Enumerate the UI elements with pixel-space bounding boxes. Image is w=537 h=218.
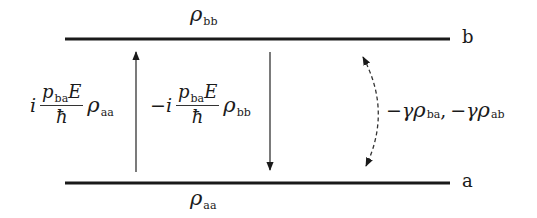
decay-rate-terms: −γρba,−γρab	[386, 98, 505, 122]
absorption-rate-term: i pbaE ħ ρaa	[30, 82, 114, 128]
fraction: pbaE ħ	[40, 82, 83, 128]
field-symbol: E	[204, 81, 217, 102]
subscript: ba	[191, 92, 205, 105]
subscript: aa	[101, 106, 114, 119]
level-b-label: b	[462, 26, 474, 47]
rho-symbol: ρ	[478, 98, 490, 122]
rho-symbol: ρ	[413, 98, 425, 122]
fraction-denominator: ħ	[192, 106, 204, 128]
imaginary-unit: i	[30, 94, 36, 116]
rho-symbol: ρ	[190, 186, 202, 210]
subscript: bb	[203, 15, 217, 28]
fraction-numerator: pbaE	[40, 82, 83, 106]
subscript: ab	[491, 108, 505, 121]
fraction: pbaE ħ	[176, 82, 219, 128]
rho-symbol: ρ	[87, 93, 99, 117]
neg-imaginary-unit: −i	[150, 94, 172, 116]
rho-aa-population-label: ρaa	[190, 186, 216, 210]
subscript: ba	[55, 92, 69, 105]
subscript: bb	[237, 106, 251, 119]
rho-bb-population-label: ρbb	[190, 2, 217, 26]
decay-dashed-arc	[363, 57, 378, 166]
dipole-symbol: p	[42, 81, 54, 102]
level-a-label: a	[462, 170, 473, 191]
gamma-prefix: −γ	[450, 99, 477, 121]
separator: ,	[440, 99, 446, 121]
rho-symbol: ρ	[190, 2, 202, 26]
subscript: aa	[203, 199, 216, 212]
subscript: ba	[427, 108, 441, 121]
dipole-symbol: p	[178, 81, 190, 102]
gamma-prefix: −γ	[386, 99, 413, 121]
fraction-numerator: pbaE	[176, 82, 219, 106]
field-symbol: E	[68, 81, 81, 102]
rho-symbol: ρ	[223, 93, 235, 117]
fraction-denominator: ħ	[56, 106, 68, 128]
emission-rate-term: −i pbaE ħ ρbb	[150, 82, 251, 128]
